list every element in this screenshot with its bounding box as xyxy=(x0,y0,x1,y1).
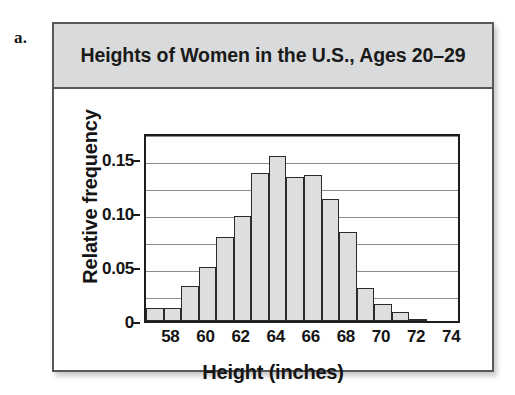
x-axis-title: Height (inches) xyxy=(54,361,492,384)
y-axis-tick-mark xyxy=(133,214,140,216)
x-axis-tick-label: 64 xyxy=(267,327,285,347)
histogram-bar xyxy=(357,288,375,321)
x-axis-tick-labels: 586062646668707274 xyxy=(144,327,460,353)
y-axis-tick-label: 0.15 xyxy=(102,151,134,171)
x-axis-tick-label: 68 xyxy=(337,327,355,347)
histogram-bar xyxy=(444,319,462,321)
x-axis-tick-label: 72 xyxy=(407,327,425,347)
x-axis-tick-label: 62 xyxy=(231,327,249,347)
part-label: a. xyxy=(14,28,27,48)
histogram-bar xyxy=(181,286,199,321)
y-axis-tick-labels: 0.150.100.050 xyxy=(54,134,140,323)
histogram-bar xyxy=(286,177,304,321)
histogram-bar xyxy=(339,232,357,321)
plot-frame xyxy=(144,134,460,323)
histogram-bar xyxy=(251,173,269,321)
chart-title-band: Heights of Women in the U.S., Ages 20–29 xyxy=(54,24,492,89)
x-axis-tick-label: 74 xyxy=(442,327,460,347)
histogram-bar xyxy=(216,237,234,321)
histogram-bar xyxy=(374,304,392,321)
histogram-bar xyxy=(234,216,252,321)
histogram-bar xyxy=(304,175,322,321)
histogram-bar xyxy=(146,308,164,321)
x-axis-tick-label: 70 xyxy=(372,327,390,347)
y-axis-tick-mark xyxy=(133,322,140,324)
figure-root: a. Heights of Women in the U.S., Ages 20… xyxy=(0,0,515,395)
histogram-bar xyxy=(164,308,182,321)
chart-area: Relative frequency 0.150.100.050 5860626… xyxy=(54,89,492,370)
chart-title: Heights of Women in the U.S., Ages 20–29 xyxy=(80,43,465,67)
histogram-bar xyxy=(409,319,427,321)
histogram-bar xyxy=(392,312,410,321)
histogram-bar xyxy=(269,156,287,321)
x-axis-tick-label: 60 xyxy=(196,327,214,347)
y-axis-tick-mark xyxy=(133,268,140,270)
histogram-bar xyxy=(427,319,445,321)
histogram-bar xyxy=(322,199,340,321)
x-axis-tick-label: 66 xyxy=(302,327,320,347)
histogram-bars xyxy=(146,136,458,321)
y-axis-tick-label: 0.05 xyxy=(102,259,134,279)
y-axis-tick-mark xyxy=(133,160,140,162)
y-axis-tick-label: 0.10 xyxy=(102,205,134,225)
x-axis-tick-label: 58 xyxy=(161,327,179,347)
histogram-bar xyxy=(199,267,217,321)
chart-card: Heights of Women in the U.S., Ages 20–29… xyxy=(52,22,494,372)
